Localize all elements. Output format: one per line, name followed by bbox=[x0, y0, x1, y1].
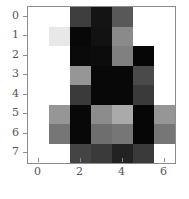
y-tick-label: 3 bbox=[5, 67, 19, 80]
heatmap-cell bbox=[49, 105, 70, 125]
heatmap-cell bbox=[91, 105, 112, 125]
heatmap-cell bbox=[112, 105, 133, 125]
heatmap-cell bbox=[112, 66, 133, 86]
heatmap-cell bbox=[154, 27, 175, 47]
heatmap-cell bbox=[154, 105, 175, 125]
heatmap-cell bbox=[91, 7, 112, 27]
heatmap-cell bbox=[70, 105, 91, 125]
heatmap-cell bbox=[28, 85, 49, 105]
heatmap-cell bbox=[28, 66, 49, 86]
y-tick-label: 7 bbox=[5, 145, 19, 158]
y-tick-label: 6 bbox=[5, 126, 19, 139]
heatmap-cell bbox=[28, 27, 49, 47]
heatmap-cell bbox=[133, 46, 154, 66]
y-tick-label: 2 bbox=[5, 48, 19, 61]
heatmap-cell bbox=[112, 46, 133, 66]
heatmap-cell bbox=[154, 85, 175, 105]
y-tick-mark bbox=[23, 74, 27, 75]
x-tick-mark bbox=[38, 158, 39, 162]
heatmap-cell bbox=[49, 66, 70, 86]
x-tick-mark bbox=[164, 158, 165, 162]
heatmap-cell bbox=[91, 46, 112, 66]
heatmap-cell bbox=[133, 105, 154, 125]
y-tick-label: 5 bbox=[5, 106, 19, 119]
heatmap-cell bbox=[133, 144, 154, 164]
heatmap-cell bbox=[28, 124, 49, 144]
y-tick-label: 0 bbox=[5, 9, 19, 22]
heatmap-cell bbox=[70, 85, 91, 105]
heatmap-cell bbox=[112, 27, 133, 47]
heatmap-cell bbox=[154, 124, 175, 144]
heatmap-cell bbox=[133, 7, 154, 27]
heatmap-cell bbox=[49, 144, 70, 164]
figure-container: 024601234567 bbox=[0, 0, 189, 199]
heatmap-cell bbox=[70, 144, 91, 164]
y-tick-mark bbox=[23, 16, 27, 17]
heatmap-cell bbox=[112, 85, 133, 105]
y-tick-mark bbox=[23, 94, 27, 95]
heatmap-cell bbox=[28, 7, 49, 27]
x-tick-label: 0 bbox=[28, 165, 48, 178]
heatmap-cell bbox=[70, 7, 91, 27]
heatmap-cell bbox=[133, 85, 154, 105]
heatmap-cell bbox=[112, 124, 133, 144]
y-tick-label: 1 bbox=[5, 28, 19, 41]
heatmap-cell bbox=[70, 66, 91, 86]
heatmap-cell bbox=[49, 46, 70, 66]
y-tick-mark bbox=[23, 35, 27, 36]
heatmap-cell bbox=[49, 124, 70, 144]
plot-area bbox=[27, 6, 176, 164]
heatmap-cell bbox=[28, 144, 49, 164]
heatmap-cell bbox=[28, 46, 49, 66]
heatmap-cell bbox=[91, 144, 112, 164]
heatmap-cell bbox=[91, 124, 112, 144]
heatmap-cell bbox=[112, 7, 133, 27]
heatmap-cell bbox=[133, 27, 154, 47]
x-tick-label: 2 bbox=[70, 165, 90, 178]
heatmap-cell bbox=[70, 27, 91, 47]
heatmap-cell bbox=[49, 85, 70, 105]
heatmap-cell bbox=[70, 46, 91, 66]
heatmap-cell bbox=[112, 144, 133, 164]
heatmap-grid bbox=[28, 7, 175, 163]
y-tick-mark bbox=[23, 113, 27, 114]
heatmap-cell bbox=[154, 46, 175, 66]
heatmap-cell bbox=[91, 66, 112, 86]
x-tick-mark bbox=[122, 158, 123, 162]
heatmap-cell bbox=[133, 124, 154, 144]
heatmap-cell bbox=[154, 66, 175, 86]
heatmap-cell bbox=[91, 85, 112, 105]
heatmap-cell bbox=[133, 66, 154, 86]
y-tick-label: 4 bbox=[5, 87, 19, 100]
heatmap-cell bbox=[49, 7, 70, 27]
y-tick-mark bbox=[23, 152, 27, 153]
heatmap-cell bbox=[28, 105, 49, 125]
y-tick-mark bbox=[23, 55, 27, 56]
heatmap-cell bbox=[49, 27, 70, 47]
x-tick-label: 4 bbox=[112, 165, 132, 178]
heatmap-cell bbox=[91, 27, 112, 47]
y-tick-mark bbox=[23, 133, 27, 134]
heatmap-cell bbox=[154, 7, 175, 27]
x-tick-mark bbox=[80, 158, 81, 162]
heatmap-cell bbox=[70, 124, 91, 144]
x-tick-label: 6 bbox=[154, 165, 174, 178]
heatmap-cell bbox=[154, 144, 175, 164]
